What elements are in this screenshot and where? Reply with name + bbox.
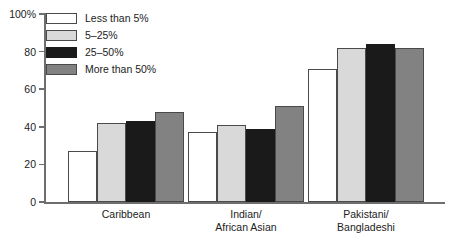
bar (188, 132, 217, 202)
y-axis-tick (39, 201, 45, 203)
y-axis-tick-label: 100% (0, 9, 36, 20)
bar (155, 112, 184, 202)
y-axis-tick-label: 20 (0, 159, 36, 170)
legend-swatch (46, 47, 77, 58)
y-axis-tick-label: 80 (0, 47, 36, 58)
y-axis-tick (39, 13, 45, 15)
legend-swatch (46, 30, 77, 41)
category-label: Pakistani/ Bangladeshi (296, 208, 436, 233)
legend-label: Less than 5% (85, 13, 149, 24)
legend-item: 25–50% (46, 44, 156, 60)
y-axis-tick (39, 164, 45, 166)
category-label: Indian/ African Asian (176, 208, 316, 233)
bar (217, 125, 246, 202)
y-axis-tick-label: 40 (0, 122, 36, 133)
bar (366, 44, 395, 202)
y-axis-tick-label: 0 (0, 197, 36, 208)
y-axis-tick (39, 51, 45, 53)
bar-chart: 020406080100% CaribbeanIndian/ African A… (0, 0, 449, 247)
category-label: Caribbean (56, 208, 196, 221)
legend-label: More than 50% (85, 64, 156, 75)
bar (126, 121, 155, 202)
y-axis-tick (39, 88, 45, 90)
bar (68, 151, 97, 202)
bar (395, 48, 424, 202)
chart-legend: Less than 5%5–25%25–50%More than 50% (46, 10, 156, 78)
y-axis-tick (39, 126, 45, 128)
legend-swatch (46, 64, 77, 75)
legend-label: 5–25% (85, 30, 118, 41)
legend-swatch (46, 13, 77, 24)
bar (275, 106, 304, 202)
legend-label: 25–50% (85, 47, 124, 58)
bar (337, 48, 366, 202)
y-axis-tick-label: 60 (0, 84, 36, 95)
legend-item: 5–25% (46, 27, 156, 43)
x-axis-line (44, 202, 445, 204)
bar (246, 129, 275, 202)
legend-item: More than 50% (46, 61, 156, 77)
bar (97, 123, 126, 202)
bar (308, 69, 337, 202)
legend-item: Less than 5% (46, 10, 156, 26)
